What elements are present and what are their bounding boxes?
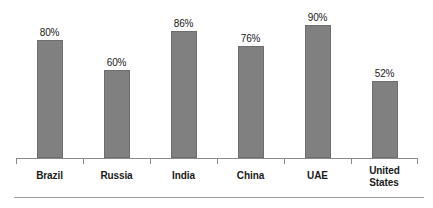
axis-category-label-line: States (369, 177, 398, 188)
bar-rect[interactable] (37, 40, 63, 158)
axis-category-cell: India (150, 165, 217, 183)
axis-tick (16, 158, 17, 164)
axis-category-cell: China (217, 165, 284, 183)
bar-slot: 52% (351, 10, 418, 158)
axis-tick (284, 158, 285, 164)
axis-tick (351, 158, 352, 164)
bar-value-label: 60% (107, 57, 126, 68)
axis-category-label: UAE (307, 170, 328, 182)
bar-rect[interactable] (305, 25, 331, 158)
axis-category-label: India (172, 170, 195, 182)
bar-rect[interactable] (171, 31, 197, 158)
bar-value-label: 52% (375, 68, 394, 79)
axis-tick (150, 158, 151, 164)
axis-category-cell: UnitedStates (351, 165, 418, 190)
axis-category-label-line: United (369, 165, 400, 176)
bar-column[interactable]: 80% (37, 27, 63, 158)
axis-category-label: Brazil (36, 170, 63, 182)
bar-value-label: 76% (241, 33, 260, 44)
axis-category-cell: UAE (284, 165, 351, 183)
footer-divider (14, 197, 424, 198)
axis-tick (83, 158, 84, 164)
bar-rect[interactable] (238, 46, 264, 158)
bar-slot: 90% (284, 10, 351, 158)
bar-value-label: 86% (174, 18, 193, 29)
axis-category-label: Russia (100, 170, 132, 182)
axis-tick (217, 158, 218, 164)
bar-slot: 76% (217, 10, 284, 158)
axis-category-label: China (237, 170, 264, 182)
bar-column[interactable]: 76% (238, 33, 264, 158)
bar-column[interactable]: 90% (305, 12, 331, 158)
x-axis-category-labels: Brazil Russia India China UAE UnitedStat… (16, 165, 418, 195)
axis-category-cell: Russia (83, 165, 150, 183)
bar-column[interactable]: 52% (372, 68, 398, 158)
bar-slot: 80% (16, 10, 83, 158)
axis-tick (417, 158, 418, 164)
bar-column[interactable]: 86% (171, 18, 197, 158)
bar-chart-figure: 80% 60% 86% 76% 90% (0, 0, 433, 208)
bar-column[interactable]: 60% (104, 57, 130, 158)
bar-slot: 60% (83, 10, 150, 158)
bar-rect[interactable] (372, 81, 398, 158)
bar-rect[interactable] (104, 70, 130, 158)
bar-value-label: 80% (40, 27, 59, 38)
bar-slot: 86% (150, 10, 217, 158)
chart-plot-area: 80% 60% 86% 76% 90% (16, 10, 418, 158)
axis-category-label: UnitedStates (369, 165, 400, 188)
bar-value-label: 90% (308, 12, 327, 23)
axis-category-cell: Brazil (16, 165, 83, 183)
